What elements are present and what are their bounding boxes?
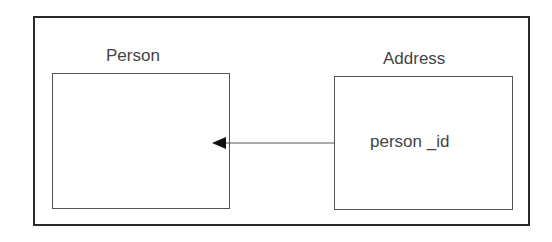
relationship-arrow bbox=[0, 0, 552, 242]
arrowhead-icon bbox=[212, 137, 226, 149]
